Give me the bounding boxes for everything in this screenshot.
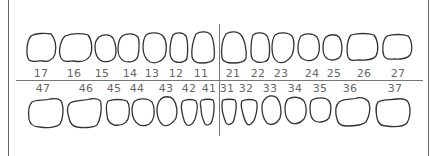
tooth-label-24: 24 [305, 68, 319, 80]
tooth-12[interactable] [170, 33, 188, 62]
tooth-label-33: 33 [263, 83, 277, 95]
tooth-label-31: 31 [220, 83, 234, 95]
tooth-46[interactable] [68, 99, 102, 128]
tooth-label-34: 34 [288, 83, 302, 95]
tooth-label-35: 35 [313, 83, 327, 95]
tooth-label-32: 32 [239, 83, 253, 95]
tooth-label-13: 13 [145, 68, 159, 80]
tooth-27[interactable] [383, 35, 412, 60]
tooth-label-44: 44 [130, 83, 144, 95]
tooth-label-36: 36 [343, 83, 357, 95]
tooth-45[interactable] [106, 100, 129, 126]
tooth-label-23: 23 [274, 68, 288, 80]
dental-chart: 17 16 15 14 13 12 11 21 22 23 24 25 26 2… [0, 0, 440, 156]
tooth-43[interactable] [157, 97, 177, 126]
tooth-35[interactable] [310, 98, 331, 122]
tooth-11[interactable] [192, 32, 215, 63]
tooth-label-26: 26 [357, 68, 371, 80]
tooth-label-37: 37 [388, 83, 402, 95]
tooth-label-16: 16 [67, 68, 81, 80]
midline [219, 24, 220, 136]
tooth-22[interactable] [251, 33, 270, 62]
tooth-33[interactable] [262, 96, 281, 125]
tooth-label-42: 42 [182, 83, 196, 95]
tooth-25[interactable] [323, 35, 342, 60]
tooth-17[interactable] [27, 33, 56, 61]
tooth-13[interactable] [143, 33, 166, 63]
tooth-26[interactable] [347, 34, 378, 61]
tooth-label-22: 22 [251, 68, 265, 80]
tooth-47[interactable] [29, 99, 63, 128]
tooth-31[interactable] [222, 99, 236, 124]
tooth-16[interactable] [60, 34, 92, 62]
tooth-label-21: 21 [226, 68, 240, 80]
tooth-41[interactable] [200, 99, 214, 125]
tooth-44[interactable] [132, 99, 154, 126]
tooth-label-45: 45 [107, 83, 121, 95]
tooth-21[interactable] [222, 32, 247, 63]
tooth-32[interactable] [241, 100, 257, 125]
tooth-label-47: 47 [36, 83, 50, 95]
tooth-23[interactable] [272, 33, 294, 63]
tooth-label-41: 41 [202, 83, 216, 95]
tooth-37[interactable] [376, 99, 410, 127]
tooth-14[interactable] [118, 34, 139, 62]
tooth-label-43: 43 [159, 83, 173, 95]
tooth-34[interactable] [285, 97, 306, 123]
tooth-label-17: 17 [34, 68, 48, 80]
tooth-label-15: 15 [95, 68, 109, 80]
tooth-label-27: 27 [391, 68, 405, 80]
tooth-label-11: 11 [194, 68, 208, 80]
tooth-15[interactable] [95, 35, 116, 62]
tooth-label-46: 46 [79, 83, 93, 95]
tooth-label-12: 12 [169, 68, 183, 80]
tooth-36[interactable] [336, 98, 370, 126]
tooth-label-25: 25 [327, 68, 341, 80]
tooth-24[interactable] [298, 34, 319, 61]
tooth-42[interactable] [181, 100, 197, 126]
tooth-label-14: 14 [123, 68, 137, 80]
